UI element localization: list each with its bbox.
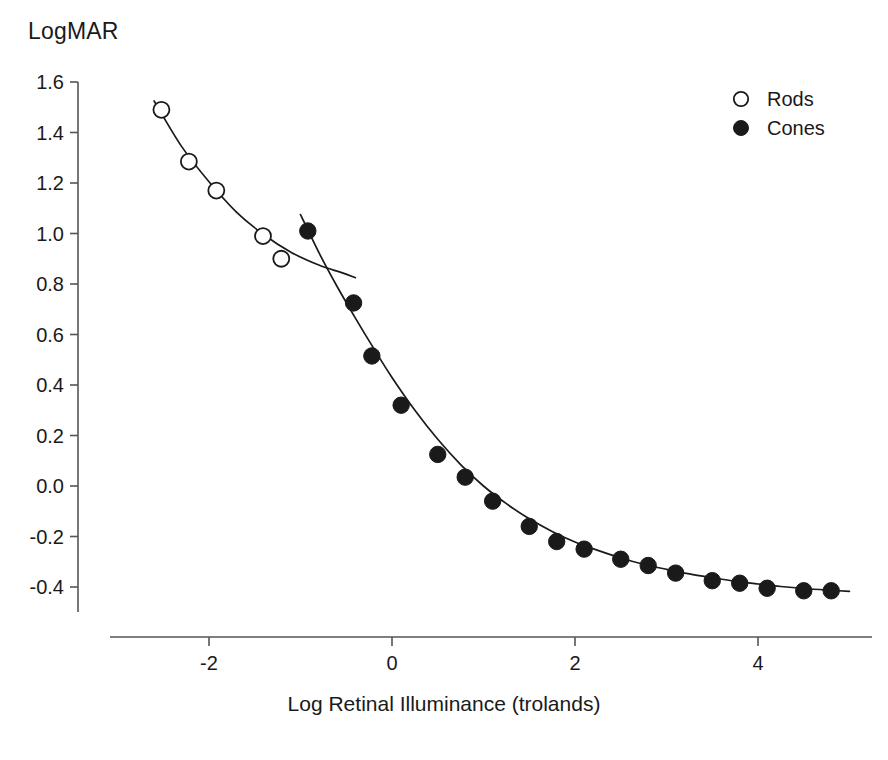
y-axis-tick-label: 0.2 [0,424,64,447]
chart-figure: LogMAR 1.61.41.21.00.80.60.40.20.0-0.2-0… [0,0,888,760]
fit-curves-layer [154,101,849,591]
y-axis-tick-label: -0.2 [0,525,64,548]
data-point-rods [153,102,169,118]
data-point-rods [273,251,289,267]
data-point-cones [300,223,316,239]
data-point-cones [732,575,748,591]
x-axis-tick-label: 2 [569,652,580,675]
data-point-cones [549,533,565,549]
x-axis-tick-label: 4 [752,652,763,675]
y-axis-tick-label: 1.2 [0,172,64,195]
fit-curve-cones [301,215,850,592]
y-axis-tick-label: 1.4 [0,121,64,144]
data-point-cones [345,295,361,311]
data-point-cones [393,397,409,413]
x-axis-tick-label: 0 [386,652,397,675]
legend-label-cones: Cones [767,117,825,140]
data-point-cones [364,348,380,364]
data-points-layer [153,102,839,599]
y-axis-tick-label: 0.8 [0,273,64,296]
x-axis-title: Log Retinal Illuminance (trolands) [0,692,888,716]
legend-markers [734,92,749,136]
data-point-rods [255,228,271,244]
fit-curve-rods [154,101,355,278]
x-axis-tick-label: -2 [200,652,218,675]
data-point-cones [576,541,592,557]
y-axis-tick-label: 0.4 [0,374,64,397]
data-point-cones [796,583,812,599]
y-axis-tick-label: -0.4 [0,576,64,599]
data-point-cones [704,572,720,588]
data-point-cones [457,469,473,485]
legend-label-rods: Rods [767,88,814,111]
data-point-cones [430,446,446,462]
y-axis-tick-label: 1.0 [0,222,64,245]
data-point-cones [484,493,500,509]
y-axis-tick-label: 0.0 [0,475,64,498]
data-point-rods [208,183,224,199]
data-point-cones [613,551,629,567]
y-axis-tick-label: 0.6 [0,323,64,346]
data-point-cones [823,583,839,599]
data-point-cones [667,565,683,581]
data-point-rods [181,154,197,170]
legend-marker-cones [734,121,749,136]
y-axis-tick-label: 1.6 [0,71,64,94]
data-point-cones [521,518,537,534]
plot-canvas [0,0,888,760]
data-point-cones [640,557,656,573]
legend-marker-rods [734,92,748,106]
data-point-cones [759,580,775,596]
y-axis-title: LogMAR [28,18,119,45]
